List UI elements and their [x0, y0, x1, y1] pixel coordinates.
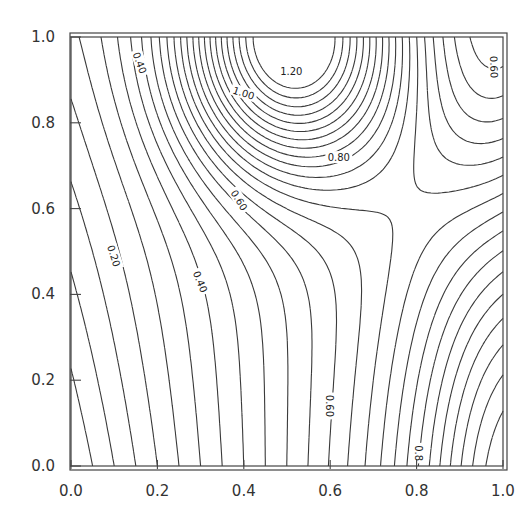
contour-lines [71, 37, 503, 466]
svg-text:1.20: 1.20 [280, 66, 302, 77]
y-tick-label: 0.0 [31, 457, 55, 475]
contour-line [227, 37, 503, 466]
contour-label: 0.80 [325, 151, 352, 163]
contour-label: 0.20 [104, 241, 124, 270]
contour-line [187, 37, 503, 466]
contour-labels: 0.401.201.000.800.600.600.200.400.600.8 [104, 48, 500, 463]
contour-line [216, 37, 503, 466]
contour-line [118, 37, 223, 466]
x-tick-label: 0.8 [405, 482, 429, 500]
y-tick-label: 1.0 [31, 28, 55, 46]
contour-line [253, 37, 335, 88]
contour-label: 0.60 [324, 393, 336, 420]
contour-line [79, 37, 179, 466]
svg-text:0.80: 0.80 [328, 152, 350, 163]
contour-label: 0.40 [190, 267, 211, 296]
x-tick-label: 0.2 [145, 482, 169, 500]
contour-line [71, 99, 157, 466]
contour-chart: 0.401.201.000.800.600.600.200.400.600.8 … [0, 0, 530, 518]
svg-text:0.60: 0.60 [488, 56, 500, 79]
y-axis: 0.00.20.40.60.81.0 [31, 28, 81, 475]
contour-label: 0.8 [413, 443, 425, 464]
contour-line [174, 37, 503, 466]
x-tick-label: 0.4 [232, 482, 256, 500]
plot-frame [70, 33, 507, 470]
contour-label: 1.00 [229, 83, 258, 103]
svg-text:0.40: 0.40 [191, 269, 210, 294]
y-tick-label: 0.2 [31, 371, 55, 389]
y-tick-label: 0.8 [31, 114, 55, 132]
svg-text:0.8: 0.8 [413, 445, 424, 461]
x-tick-label: 0.0 [59, 482, 83, 500]
svg-text:1.00: 1.00 [231, 85, 256, 102]
contour-label: 0.60 [488, 53, 501, 80]
contour-label: 0.60 [227, 185, 251, 214]
contour-label: 1.20 [278, 65, 305, 77]
contour-line [233, 37, 503, 466]
x-tick-label: 0.6 [318, 482, 342, 500]
contour-line [71, 369, 93, 467]
contour-label: 0.40 [130, 48, 150, 77]
y-tick-label: 0.4 [31, 285, 55, 303]
svg-text:0.20: 0.20 [105, 244, 122, 269]
contour-line [71, 182, 136, 466]
contour-line [221, 37, 503, 466]
y-tick-label: 0.6 [31, 200, 55, 218]
svg-text:0.60: 0.60 [324, 395, 335, 417]
contour-line [71, 272, 114, 466]
x-tick-label: 1.0 [491, 482, 515, 500]
